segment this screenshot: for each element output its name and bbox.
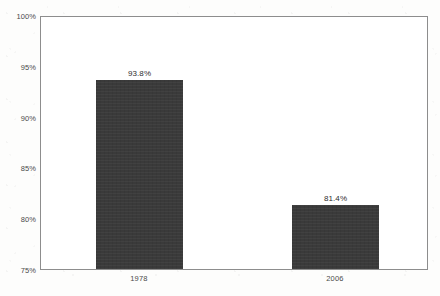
- x-axis-category-label-1978: 1978: [130, 274, 148, 283]
- y-axis-tick-label: 80%: [21, 215, 36, 224]
- x-axis-category-label-2006: 2006: [326, 274, 344, 283]
- y-axis-tick-label: 95%: [21, 62, 36, 71]
- bar-value-label-2006: 81.4%: [324, 194, 347, 203]
- bar-2006: [292, 205, 379, 270]
- bar-value-label-1978: 93.8%: [128, 69, 151, 78]
- y-axis-tick-label: 85%: [21, 164, 36, 173]
- x-axis: 1978 2006: [0, 274, 440, 292]
- y-axis-tick-label: 100%: [16, 12, 36, 21]
- bar-chart: 100% 95% 90% 85% 80% 75% 93.8% 81.4% 197…: [0, 0, 440, 296]
- plot-inner: 93.8% 81.4%: [41, 17, 427, 269]
- plot-area: 93.8% 81.4%: [40, 16, 428, 270]
- y-axis-tick-label: 90%: [21, 113, 36, 122]
- bar-1978: [96, 80, 183, 270]
- y-axis: 100% 95% 90% 85% 80% 75%: [0, 16, 36, 270]
